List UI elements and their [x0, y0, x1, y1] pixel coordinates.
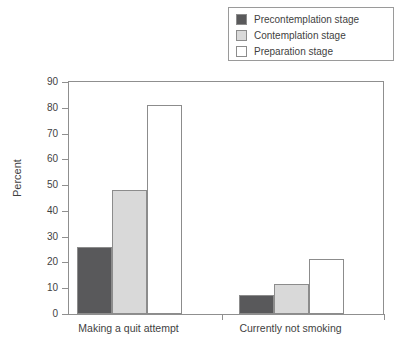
legend-swatch-precontemplation — [236, 14, 247, 25]
y-tick-mark — [62, 185, 69, 186]
y-tick-label: 30 — [47, 230, 58, 241]
y-tick-label: 0 — [52, 308, 58, 319]
y-tick-label: 10 — [47, 282, 58, 293]
plot-area — [68, 81, 384, 315]
x-axis-labels: Making a quit attemptCurrently not smoki… — [0, 322, 403, 342]
bar — [274, 284, 309, 314]
y-tick-mark — [62, 134, 69, 135]
legend-swatch-contemplation — [236, 30, 247, 41]
chart-legend: Precontemplation stage Contemplation sta… — [228, 7, 394, 61]
legend-label-contemplation: Contemplation stage — [254, 30, 346, 41]
bar — [77, 247, 112, 314]
legend-item: Precontemplation stage — [236, 12, 393, 27]
legend-label-precontemplation: Precontemplation stage — [254, 14, 359, 25]
legend-item: Contemplation stage — [236, 28, 393, 43]
bar — [112, 190, 147, 314]
y-tick-mark — [62, 237, 69, 238]
y-tick-label: 70 — [47, 127, 58, 138]
y-tick-label: 60 — [47, 153, 58, 164]
legend-swatch-preparation — [236, 46, 247, 57]
x-category-label: Making a quit attempt — [78, 322, 178, 334]
y-tick-label: 90 — [47, 76, 58, 87]
y-tick-mark — [62, 159, 69, 160]
y-tick-label: 50 — [47, 179, 58, 190]
x-tick-mark — [384, 314, 385, 320]
bar — [309, 259, 344, 314]
y-tick-mark — [62, 288, 69, 289]
y-tick-mark — [62, 211, 69, 212]
x-axis-ticks — [68, 314, 384, 320]
y-axis-title: Percent — [11, 159, 23, 197]
y-tick-label: 40 — [47, 204, 58, 215]
y-tick-mark — [62, 262, 69, 263]
y-tick-label: 20 — [47, 256, 58, 267]
y-tick-mark — [62, 82, 69, 83]
bar — [239, 295, 274, 314]
legend-item: Preparation stage — [236, 44, 393, 59]
x-tick-mark — [222, 314, 223, 320]
legend-label-preparation: Preparation stage — [254, 46, 333, 57]
x-category-label: Currently not smoking — [239, 322, 341, 334]
y-tick-mark — [62, 108, 69, 109]
y-tick-label: 80 — [47, 101, 58, 112]
bar — [147, 105, 182, 314]
